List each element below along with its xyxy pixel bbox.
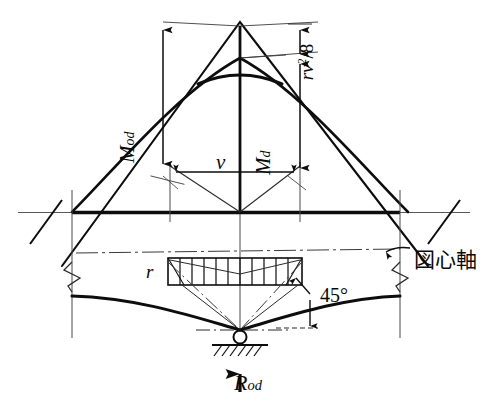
- label-m-od: Mod: [115, 132, 140, 163]
- centroid-axis-leader: [386, 248, 410, 253]
- v-dimension-splay-lines: [170, 166, 300, 212]
- label-m-d-sub: d: [258, 151, 273, 158]
- label-rv2-denom: 8: [296, 44, 317, 54]
- label-r-od-base: R: [234, 370, 247, 395]
- label-m-od-sub: od: [122, 132, 137, 146]
- label-rv2-exp: 2: [296, 59, 309, 65]
- beam-soffit-curve: [72, 296, 400, 330]
- label-m-d: Md: [251, 151, 276, 175]
- label-angle-45: 45°: [320, 284, 348, 307]
- label-rv2-var: v: [296, 64, 317, 72]
- label-v: v: [216, 150, 225, 175]
- label-r-od-sub: od: [247, 377, 262, 393]
- diagram-svg: [0, 0, 488, 403]
- label-rv2-over-8: rv2/8: [296, 44, 318, 81]
- label-rv2-base: r: [296, 73, 317, 80]
- label-m-d-base: M: [251, 158, 275, 176]
- label-m-od-base: M: [115, 146, 139, 164]
- label-r-od: Rod: [234, 370, 262, 396]
- label-r: r: [146, 261, 153, 283]
- load-spread-45-lines: [168, 262, 302, 330]
- roller-support: [212, 331, 268, 357]
- centroid-axis-line: [76, 249, 400, 253]
- label-centroid-axis: 図心軸: [414, 243, 477, 273]
- figure-canvas: Mod Md rv2/8 v r 45° 図心軸 Rod: [0, 0, 488, 403]
